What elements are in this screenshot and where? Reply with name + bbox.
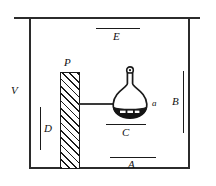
label-vessel: V xyxy=(11,85,18,96)
label-right-marker: B xyxy=(172,96,179,107)
label-top-marker: E xyxy=(113,31,120,42)
round-bottom-flask-icon xyxy=(108,66,152,121)
vessel-wall-bottom xyxy=(29,167,190,169)
vessel-wall-left xyxy=(29,17,31,169)
apparatus-diagram: V P E B D C A a xyxy=(0,0,216,186)
marker-line-right xyxy=(183,71,184,133)
label-flask-base-marker: C xyxy=(122,127,129,138)
label-left-marker: D xyxy=(44,123,52,134)
label-bottom-marker: A xyxy=(128,159,135,170)
label-flask-pointer: a xyxy=(152,99,157,108)
vessel-wall-top xyxy=(14,17,200,19)
marker-line-left xyxy=(40,107,41,150)
hatched-plate xyxy=(60,72,80,169)
label-plate: P xyxy=(64,57,71,68)
vessel-wall-right xyxy=(188,17,190,169)
